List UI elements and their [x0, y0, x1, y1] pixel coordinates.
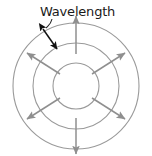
wavefront-svg: Wavelength: [0, 0, 152, 156]
wavelength-diagram: Wavelength: [0, 0, 152, 156]
middle-wavefront: [33, 43, 119, 129]
arrow-lower-left: [27, 98, 60, 119]
label-leader-line: [46, 19, 52, 28]
arrow-lower-right: [92, 98, 125, 119]
propagation-arrow-group: [27, 16, 125, 154]
wavelength-label: Wavelength: [40, 4, 115, 19]
arrow-upper-left: [27, 53, 60, 74]
arrow-upper-right: [92, 53, 125, 74]
inner-wavefront: [53, 63, 99, 109]
wavelength-measure-arrow: [43, 29, 57, 49]
